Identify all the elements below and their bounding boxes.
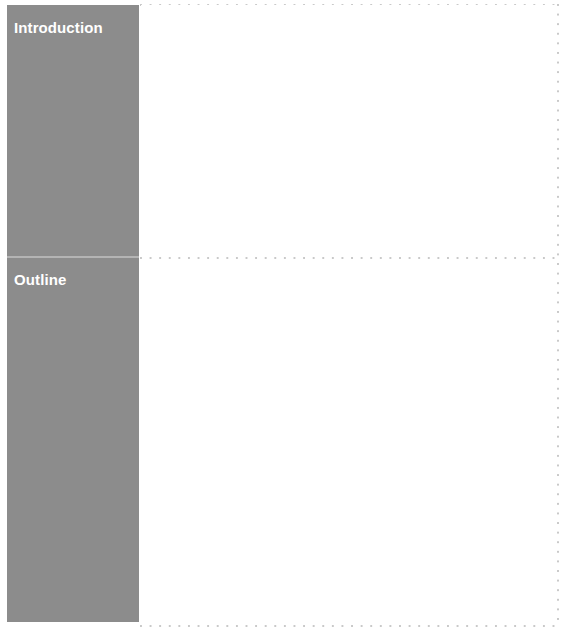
section-rail-introduction[interactable] [7,5,139,256]
dotted-rule-right [557,4,559,627]
section-title-outline: Outline [14,272,66,287]
section-title-introduction: Introduction [14,20,103,35]
section-content-outline[interactable] [141,259,557,624]
section-rail-outline[interactable] [7,258,139,622]
section-content-introduction[interactable] [141,5,557,256]
slide-page: Introduction Outline [0,0,574,632]
dotted-rule-bottom [140,625,560,627]
